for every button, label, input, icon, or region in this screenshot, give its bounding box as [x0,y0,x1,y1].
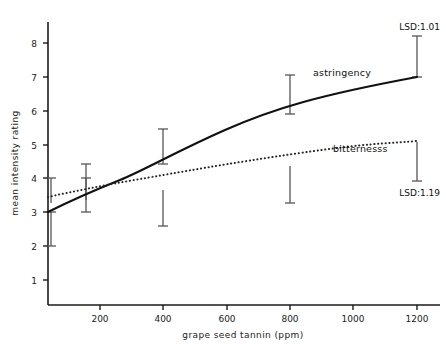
y-tick-label-2: 2 [31,242,37,252]
y-tick-labels: 8 7 6 5 4 3 2 1 [31,39,37,286]
axes-group [48,22,440,305]
chart-root: 8 7 6 5 4 3 2 1 200 400 600 800 1000 120… [0,0,446,344]
y-tick-label-4: 4 [31,174,37,184]
y-tick-label-3: 3 [31,208,37,218]
error-bar-astringency-1200-lsd [412,36,422,77]
series-label-astringency: astringency [313,67,371,78]
y-tick-label-8: 8 [31,39,37,49]
x-tick-label-600: 600 [218,314,235,324]
x-tick-label-1000: 1000 [342,314,365,324]
x-tick-label-400: 400 [154,314,171,324]
x-tick-label-800: 800 [281,314,298,324]
error-bar-bitterness-400 [158,190,168,226]
error-bar-bitterness-1200-lsd [412,142,422,181]
y-tick-label-5: 5 [31,141,37,151]
x-tick-labels: 200 400 600 800 1000 1200 [91,314,428,324]
x-tick-label-200: 200 [91,314,108,324]
y-tick-label-6: 6 [31,107,37,117]
y-tick-label-1: 1 [31,276,37,286]
y-axis-title: mean intensity rating [10,110,20,215]
x-tick-label-1200: 1200 [406,314,429,324]
series-label-bitterness: bitternesss [333,143,388,154]
error-bars-bitterness [46,142,422,226]
lsd-bitterness-label: LSD:1.19 [399,188,440,198]
y-tick-label-7: 7 [31,73,37,83]
error-bar-astringency-800 [285,75,295,114]
line-chart: 8 7 6 5 4 3 2 1 200 400 600 800 1000 120… [0,0,446,344]
lsd-astringency-label: LSD:1.01 [399,22,440,32]
error-bar-bitterness-800 [285,166,295,203]
x-axis-title: grape seed tannin (ppm) [182,330,303,340]
